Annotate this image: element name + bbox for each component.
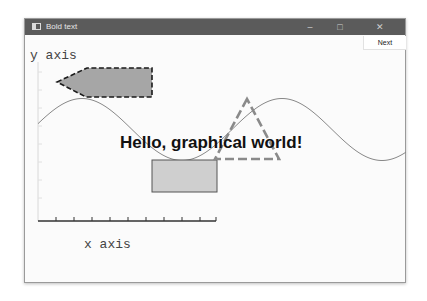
filled-rectangle [152, 160, 217, 192]
arrow-shape [57, 68, 152, 97]
headline-text: Hello, graphical world! [120, 133, 302, 152]
drawing-canvas: y axis x axis Hello, graphical world! [0, 0, 427, 301]
y-axis-ticks [38, 72, 42, 198]
x-axis-label: x axis [84, 237, 131, 252]
y-axis-label: y axis [30, 48, 77, 63]
